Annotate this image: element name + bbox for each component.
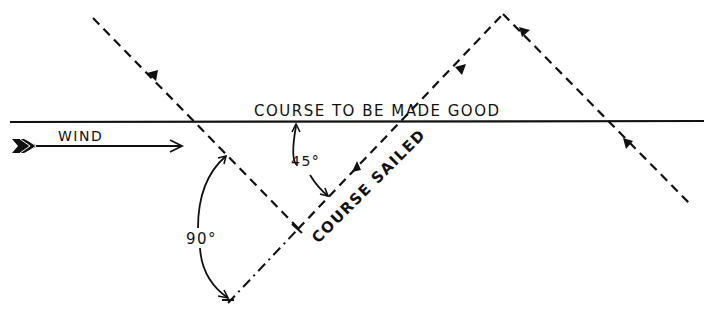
direction-arrow-icon: [352, 161, 361, 172]
tack-line-right: [503, 14, 692, 206]
course-to-be-made-good-label: COURSE TO BE MADE GOOD: [254, 102, 501, 120]
angle-90-label: 90°: [186, 230, 217, 248]
angle-90-arc: [198, 156, 228, 298]
course-to-be-made-good-line: [10, 121, 704, 122]
arrow-fletching-icon: [12, 139, 38, 153]
tacking-diagram: COURSE TO BE MADE GOOD WIND 45° 90: [0, 0, 709, 323]
wind-label: WIND: [58, 128, 103, 144]
course-sailed-line-lower: [228, 229, 298, 303]
direction-arrow-icon: [455, 64, 466, 75]
tack-line-upper-left: [93, 18, 298, 228]
angle-45-label: 45°: [291, 153, 320, 169]
course-sailed-label: COURSE SAILED: [308, 126, 429, 247]
